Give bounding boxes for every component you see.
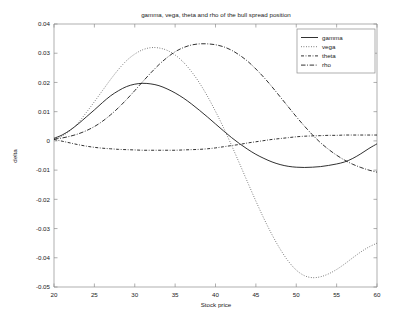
x-tick-label: 55 — [333, 291, 340, 298]
chart-legend: gammavegathetarho — [297, 29, 375, 73]
x-tick-label: 30 — [131, 291, 138, 298]
x-tick-label: 40 — [212, 291, 219, 298]
x-tick-label: 45 — [252, 291, 259, 298]
y-tick-label: 0.04 — [38, 20, 51, 27]
x-tick-label: 50 — [293, 291, 300, 298]
x-tick-label: 35 — [172, 291, 179, 298]
y-tick-label: -0.01 — [36, 166, 51, 173]
y-tick-label: -0.02 — [36, 196, 51, 203]
legend-label-gamma: gamma — [322, 34, 343, 41]
y-tick-label: 0.02 — [38, 79, 51, 86]
y-tick-label: 0.03 — [38, 49, 51, 56]
x-axis-label: Stock price — [201, 301, 232, 308]
legend-label-rho: rho — [322, 61, 332, 68]
figure-canvas: gamma, vega, theta and rho of the bull s… — [0, 0, 393, 317]
y-tick-label: -0.03 — [36, 225, 51, 232]
y-tick-label: -0.05 — [36, 283, 51, 290]
x-tick-label: 60 — [374, 291, 381, 298]
y-tick-label: -0.04 — [36, 254, 51, 261]
series-line-vega — [54, 48, 377, 278]
y-tick-label: 0 — [47, 137, 51, 144]
y-tick-label: 0.01 — [38, 108, 51, 115]
y-axis-label: delta — [11, 149, 18, 163]
series-line-gamma — [54, 83, 377, 167]
x-tick-label: 25 — [91, 291, 98, 298]
legend-label-theta: theta — [322, 52, 336, 59]
legend-label-vega: vega — [322, 43, 336, 50]
x-tick-label: 20 — [51, 291, 58, 298]
series-line-theta — [54, 135, 377, 150]
data-series-group — [54, 44, 377, 278]
chart-title: gamma, vega, theta and rho of the bull s… — [141, 11, 291, 18]
greeks-line-chart: gamma, vega, theta and rho of the bull s… — [0, 0, 393, 317]
